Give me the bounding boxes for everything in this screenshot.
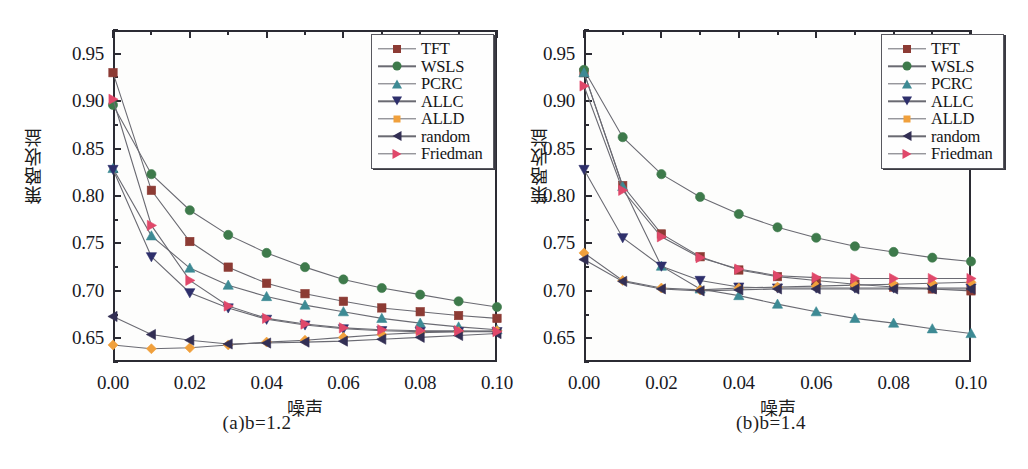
legend-key-wsls xyxy=(888,59,926,73)
legend-a: TFTWSLSPCRCALLCALLDrandomFriedman xyxy=(371,34,494,169)
legend-item-tft[interactable]: TFT xyxy=(888,40,993,58)
legend-item-allc[interactable]: ALLC xyxy=(378,93,483,111)
legend-item-alld[interactable]: ALLD xyxy=(888,110,993,128)
data-point-circle xyxy=(618,133,627,142)
legend-key-random xyxy=(378,129,416,143)
legend-marker-square-icon xyxy=(393,45,401,53)
y-tick-label: 0.80 xyxy=(543,185,584,207)
legend-item-wsls[interactable]: WSLS xyxy=(378,58,483,76)
legend-marker-circle-icon xyxy=(903,62,912,71)
x-tick-label: 0.02 xyxy=(645,362,677,394)
data-point-circle xyxy=(377,283,386,292)
legend-label: WSLS xyxy=(931,58,974,75)
data-point-diamond xyxy=(146,344,156,354)
legend-label: ALLC xyxy=(421,93,463,110)
legend-item-allc[interactable]: ALLC xyxy=(888,93,993,111)
legend-label: PCRC xyxy=(421,75,462,92)
legend-key-allc xyxy=(888,94,926,108)
legend-marker-diamond-icon xyxy=(904,115,911,122)
legend-marker-diamond-icon xyxy=(394,115,401,122)
data-point-circle xyxy=(416,290,425,299)
legend-label: ALLD xyxy=(931,110,974,127)
legend-item-pcrc[interactable]: PCRC xyxy=(378,75,483,93)
data-point-square xyxy=(147,186,155,194)
legend-label: random xyxy=(931,128,980,145)
data-point-square xyxy=(109,68,117,76)
legend-key-tft xyxy=(888,42,926,56)
legend-key-alld xyxy=(378,112,416,126)
legend-marker-circle-icon xyxy=(393,62,402,71)
y-tick-label: 0.85 xyxy=(543,138,584,160)
panel-a: 策略收益 0.950.900.850.800.750.700.650.000.0… xyxy=(0,0,514,469)
legend-key-wsls xyxy=(378,59,416,73)
x-tick-label: 0.08 xyxy=(878,362,910,394)
data-point-circle xyxy=(262,248,271,257)
data-point-circle xyxy=(734,209,743,218)
data-point-triangle-down xyxy=(618,234,628,243)
legend-item-pcrc[interactable]: PCRC xyxy=(888,75,993,93)
x-tick-label: 0.04 xyxy=(723,362,755,394)
legend-key-allc xyxy=(378,94,416,108)
y-tick-label: 0.65 xyxy=(72,327,113,349)
x-tick-label: 0.00 xyxy=(568,362,600,394)
legend-marker-triangle-down-icon xyxy=(392,97,402,106)
legend-label: ALLC xyxy=(931,93,973,110)
panel-b: 策略收益 0.950.900.850.800.750.700.650.000.0… xyxy=(514,0,1028,469)
x-tick-label: 0.06 xyxy=(800,362,832,394)
data-point-triangle-left xyxy=(146,329,155,339)
series-allc xyxy=(108,165,502,336)
legend-marker-square-icon xyxy=(903,45,911,53)
figure-root: 策略收益 0.950.900.850.800.750.700.650.000.0… xyxy=(0,0,1028,469)
legend-item-random[interactable]: random xyxy=(378,128,483,146)
x-tick-label: 0.06 xyxy=(327,362,359,394)
data-point-square xyxy=(339,297,347,305)
legend-item-wsls[interactable]: WSLS xyxy=(888,58,993,76)
data-point-circle xyxy=(147,170,156,179)
y-tick-label: 0.80 xyxy=(72,185,113,207)
y-tick-label: 0.85 xyxy=(72,138,113,160)
legend-key-friedman xyxy=(888,147,926,161)
data-point-circle xyxy=(773,223,782,232)
data-point-triangle-right xyxy=(147,220,156,230)
data-point-circle xyxy=(657,170,666,179)
data-point-triangle-down xyxy=(185,289,195,298)
plot-area-a: 0.950.900.850.800.750.700.650.000.020.04… xyxy=(113,30,497,362)
y-tick-label: 0.75 xyxy=(543,232,584,254)
legend-item-friedman[interactable]: Friedman xyxy=(888,145,993,163)
data-point-square xyxy=(301,290,309,298)
x-tick-label: 0.08 xyxy=(404,362,436,394)
y-tick-label: 0.95 xyxy=(72,43,113,65)
data-point-triangle-right xyxy=(186,275,195,285)
data-point-circle xyxy=(224,230,233,239)
data-point-triangle-left xyxy=(108,311,117,321)
data-point-square xyxy=(493,314,501,322)
y-tick-label: 0.65 xyxy=(543,327,584,349)
x-tick-label: 0.10 xyxy=(481,362,513,394)
y-tick-label: 0.95 xyxy=(543,43,584,65)
x-tick-label: 0.00 xyxy=(97,362,129,394)
y-tick-label: 0.75 xyxy=(72,232,113,254)
legend-key-tft xyxy=(378,42,416,56)
legend-label: Friedman xyxy=(421,145,483,162)
data-point-triangle-up xyxy=(146,231,156,240)
data-point-circle xyxy=(889,247,898,256)
data-point-square xyxy=(262,279,270,287)
legend-item-alld[interactable]: ALLD xyxy=(378,110,483,128)
data-point-square xyxy=(186,237,194,245)
y-tick-label: 0.70 xyxy=(72,280,113,302)
data-point-circle xyxy=(454,297,463,306)
legend-item-friedman[interactable]: Friedman xyxy=(378,145,483,163)
legend-key-pcrc xyxy=(378,77,416,91)
legend-item-random[interactable]: random xyxy=(888,128,993,146)
data-point-circle xyxy=(696,192,705,201)
legend-item-tft[interactable]: TFT xyxy=(378,40,483,58)
legend-label: WSLS xyxy=(421,58,464,75)
legend-label: Friedman xyxy=(931,145,993,162)
plot-area-b: 0.950.900.850.800.750.700.650.000.020.04… xyxy=(584,30,971,362)
data-point-circle xyxy=(966,257,975,266)
data-point-triangle-up xyxy=(185,263,195,272)
x-tick-label: 0.02 xyxy=(174,362,206,394)
y-tick-label: 0.90 xyxy=(543,90,584,112)
data-point-circle xyxy=(850,242,859,251)
data-point-circle xyxy=(339,275,348,284)
